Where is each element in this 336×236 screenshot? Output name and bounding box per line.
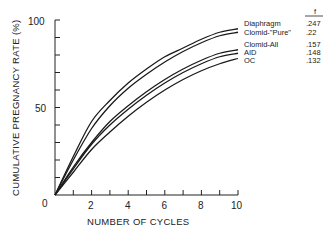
y-axis (55, 20, 60, 195)
legend-value-diaphragm: .247 (306, 19, 321, 28)
y-axis-title: CUMULATIVE PREGNANCY RATE (%) (10, 19, 21, 196)
legend-label-diaphragm: Diaphragm (244, 19, 281, 28)
curve-diaphragm (55, 29, 238, 195)
x-axis-title: NUMBER OF CYCLES (87, 216, 189, 227)
y-tick-100: 100 (28, 16, 45, 27)
x-tick-8: 8 (198, 200, 204, 211)
legend-label-oc: OC (244, 56, 256, 65)
x-axis (55, 190, 238, 195)
legend-label-clomid-pure: Clomid-"Pure" (244, 28, 291, 37)
curve-oc (55, 59, 238, 196)
curves (55, 29, 238, 195)
curve-clomid-all (55, 50, 238, 195)
legend-header: f (314, 7, 317, 16)
y-tick-0: 0 (42, 198, 48, 209)
legend-value-oc: .132 (306, 56, 321, 65)
x-tick-2: 2 (88, 200, 94, 211)
x-tick-10: 10 (231, 200, 243, 211)
pregnancy-rate-chart: CUMULATIVE PREGNANCY RATE (%) 100 50 0 2… (0, 0, 336, 236)
legend-value-clomid-pure: .22 (306, 28, 316, 37)
x-tick-4: 4 (125, 200, 131, 211)
y-tick-50: 50 (35, 103, 47, 114)
x-tick-6: 6 (162, 200, 168, 211)
legend: f Diaphragm .247 Clomid-"Pure" .22 Clomi… (244, 7, 323, 65)
